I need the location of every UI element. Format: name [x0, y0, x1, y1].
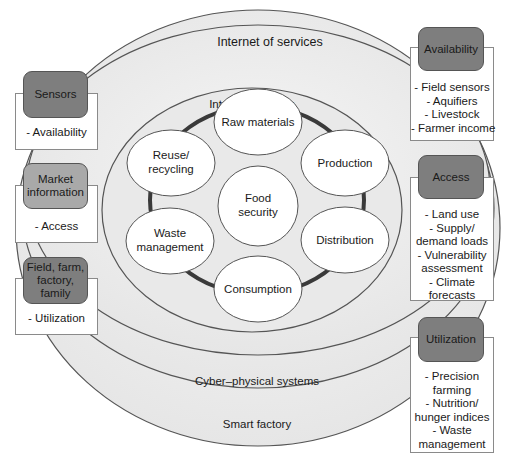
- left-header-market-information: Market information: [23, 163, 88, 209]
- svg-text:Waste: Waste: [154, 227, 186, 239]
- right-header-utilization: Utilization: [418, 317, 484, 362]
- svg-text:Consumption: Consumption: [224, 283, 292, 295]
- right-header-access: Access: [418, 155, 484, 199]
- label-smart-factory: Smart factory: [223, 418, 292, 430]
- center-node-food-security: Food security: [218, 166, 298, 246]
- label-cyber-physical-systems: Cyber–physical systems: [195, 375, 319, 387]
- cycle-node-raw-materials: Raw materials: [214, 89, 302, 155]
- cycle-node-waste-management: Waste management: [126, 208, 214, 274]
- svg-text:Food: Food: [245, 192, 271, 204]
- cycle-node-consumption: Consumption: [214, 256, 302, 322]
- svg-text:Production: Production: [318, 157, 373, 169]
- left-box-item: - Availability: [16, 126, 97, 140]
- right-header-availability: Availability: [418, 27, 484, 71]
- left-box-item: - Access: [16, 220, 97, 234]
- svg-text:Raw materials: Raw materials: [222, 116, 295, 128]
- left-box-item: - Utilization: [16, 312, 97, 326]
- svg-text:security: security: [238, 206, 278, 218]
- svg-text:recycling: recycling: [148, 163, 193, 175]
- cycle-node-distribution: Distribution: [301, 207, 389, 273]
- label-internet-of-services: Internet of services: [217, 35, 323, 49]
- cycle-node-production: Production: [301, 130, 389, 196]
- svg-text:Distribution: Distribution: [316, 234, 374, 246]
- left-header-field-farm-factory-family: Field, farm, factory, family: [23, 257, 88, 304]
- left-header-sensors: Sensors: [23, 71, 88, 118]
- cycle-node-reuse-recycling: Reuse/ recycling: [127, 130, 215, 196]
- svg-text:management: management: [136, 241, 204, 253]
- svg-text:Reuse/: Reuse/: [153, 149, 190, 161]
